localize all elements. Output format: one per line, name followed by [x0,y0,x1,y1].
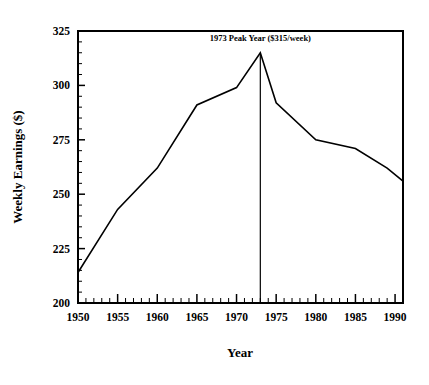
x-tick-label-1960: 1960 [146,311,169,323]
x-axis-title: Year [227,345,253,360]
x-tick-label-1985: 1985 [344,311,367,323]
x-axis-tick-labels: 195019551960196519701975198019851990 [67,311,407,323]
x-tick-label-1990: 1990 [384,311,407,323]
x-tick-label-1970: 1970 [225,311,248,323]
y-axis-tick-labels: 200225250275300325 [53,25,71,309]
plot-frame [78,31,403,303]
x-axis-ticks [78,294,403,303]
chart-figure: 195019551960196519701975198019851990 200… [0,0,429,385]
y-tick-label-300: 300 [53,79,71,91]
y-tick-label-325: 325 [53,25,71,37]
y-tick-label-275: 275 [53,134,71,146]
x-tick-label-1950: 1950 [67,311,90,323]
x-tick-label-1965: 1965 [185,311,208,323]
y-tick-label-225: 225 [53,243,71,255]
earnings-data-line [78,53,403,273]
y-tick-label-200: 200 [53,297,71,309]
y-axis-title: Weekly Earnings ($) [10,110,25,223]
x-tick-label-1975: 1975 [265,311,288,323]
peak-year-annotation: 1973 Peak Year ($315/week) [210,33,311,43]
y-tick-label-250: 250 [53,188,71,200]
x-tick-label-1955: 1955 [106,311,129,323]
x-tick-label-1980: 1980 [304,311,327,323]
line-chart-canvas: 195019551960196519701975198019851990 200… [0,0,429,385]
